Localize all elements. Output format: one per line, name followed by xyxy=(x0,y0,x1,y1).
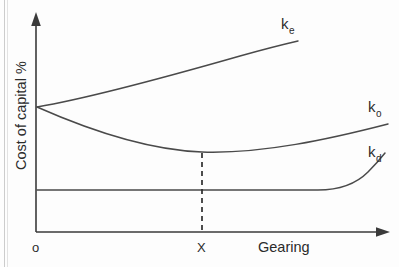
series-label-ke: k xyxy=(281,15,289,32)
y-axis-title: Cost of capital % xyxy=(13,61,29,170)
series-sublabel-ke: e xyxy=(289,25,295,36)
series-sublabel-kd: d xyxy=(376,153,382,164)
series-label-kd: k xyxy=(368,143,376,160)
x-axis-arrow-icon xyxy=(376,227,390,237)
x-axis-title: Gearing xyxy=(258,239,310,255)
curve-kd xyxy=(37,153,385,190)
curve-ko xyxy=(37,107,388,152)
curve-ke xyxy=(37,41,298,107)
figure-root: Cost of capital % Gearing o X k e k o k … xyxy=(0,0,399,267)
series-label-ko: k xyxy=(368,98,376,115)
origin-label: o xyxy=(32,240,39,255)
series-sublabel-ko: o xyxy=(376,108,382,119)
y-axis-arrow-icon xyxy=(31,12,41,26)
cost-of-capital-chart: Cost of capital % Gearing o X k e k o k … xyxy=(0,0,399,267)
x-marker-label: X xyxy=(197,240,206,255)
